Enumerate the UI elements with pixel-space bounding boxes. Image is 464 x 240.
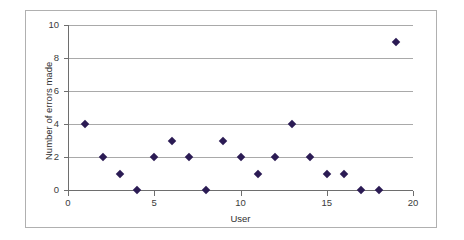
- data-point: [81, 120, 89, 128]
- data-point: [185, 153, 193, 161]
- data-point: [167, 136, 175, 144]
- data-point: [392, 37, 400, 45]
- x-axis-tick-label: 5: [143, 198, 165, 208]
- y-axis-tick-label: 10: [37, 20, 59, 30]
- x-axis-tick: [154, 191, 155, 196]
- data-point: [340, 169, 348, 177]
- data-point: [374, 186, 382, 194]
- data-point: [254, 169, 262, 177]
- data-point: [305, 153, 313, 161]
- y-axis-tick: [64, 91, 68, 92]
- data-point: [133, 186, 141, 194]
- gridline: [68, 58, 413, 59]
- y-axis-tick-label: 0: [37, 185, 59, 195]
- gridline: [68, 91, 413, 92]
- y-axis-tick: [64, 124, 68, 125]
- data-point: [323, 169, 331, 177]
- data-point: [116, 169, 124, 177]
- x-axis-tick-label: 0: [57, 198, 79, 208]
- data-point: [288, 120, 296, 128]
- y-axis-tick: [64, 25, 68, 26]
- data-point: [271, 153, 279, 161]
- data-point: [202, 186, 210, 194]
- y-axis-tick: [64, 58, 68, 59]
- data-point: [219, 136, 227, 144]
- x-axis-tick: [327, 191, 328, 196]
- y-axis-tick: [64, 157, 68, 158]
- gridline: [68, 124, 413, 125]
- x-axis-tick: [413, 191, 414, 196]
- x-axis-title: User: [181, 213, 301, 224]
- data-point: [98, 153, 106, 161]
- scatter-plot-area: 0246810 05101520 User Number of errors m…: [0, 0, 464, 240]
- x-axis-tick-label: 20: [402, 198, 424, 208]
- y-axis-line: [68, 25, 69, 190]
- data-point: [357, 186, 365, 194]
- x-axis-tick-label: 10: [230, 198, 252, 208]
- data-point: [236, 153, 244, 161]
- gridline: [68, 25, 413, 26]
- x-axis-tick: [241, 191, 242, 196]
- x-axis-tick: [68, 191, 69, 196]
- chart-figure: 0246810 05101520 User Number of errors m…: [0, 0, 464, 240]
- x-axis-tick-label: 15: [316, 198, 338, 208]
- y-axis-title: Number of errors made: [43, 61, 54, 159]
- data-point: [150, 153, 158, 161]
